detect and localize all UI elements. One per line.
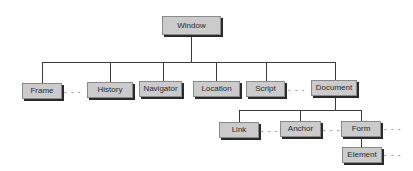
node-script: Script — [246, 81, 285, 97]
connector-window-down — [191, 35, 192, 62]
node-link: Link — [219, 122, 259, 138]
connector-document — [335, 62, 336, 80]
connector-frame — [42, 62, 43, 83]
connector-form-element — [361, 136, 362, 147]
node-form: Form — [341, 121, 381, 137]
connector-navigator — [163, 62, 164, 81]
more-ellipsis-link: - - - — [261, 127, 278, 135]
connector-history — [110, 62, 111, 82]
connector-link — [239, 110, 240, 122]
more-ellipsis-anchor: - - - — [323, 126, 340, 134]
more-ellipsis-frame: - - - — [64, 88, 81, 96]
node-element: Element — [342, 147, 382, 163]
connector-script — [266, 62, 267, 81]
object-hierarchy-diagram: Window Frame - - - History Navigator Loc… — [0, 0, 413, 171]
node-location: Location — [193, 81, 240, 97]
more-ellipsis-element: - - - — [384, 151, 401, 159]
more-ellipsis-form: - - - — [384, 125, 401, 133]
connector-location — [216, 62, 217, 81]
connector-form — [361, 110, 362, 121]
node-document: Document — [311, 80, 357, 96]
connector-anchor — [300, 110, 301, 121]
node-window: Window — [162, 16, 221, 35]
node-navigator: Navigator — [139, 81, 182, 97]
connector-document-down — [335, 95, 336, 110]
more-ellipsis-script: - - - — [288, 86, 305, 94]
node-history: History — [87, 82, 133, 98]
node-frame: Frame — [22, 83, 62, 99]
node-anchor: Anchor — [280, 121, 321, 137]
connector-level1-bar — [42, 62, 336, 63]
